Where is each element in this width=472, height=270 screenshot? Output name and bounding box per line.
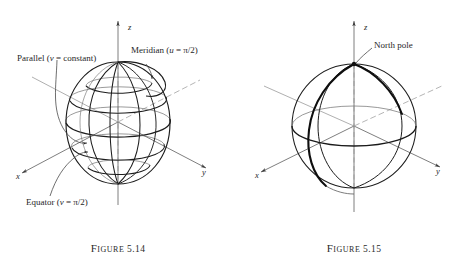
meridian-bold-tail [326,186,354,194]
axis-y-line [354,126,440,167]
axis-y-back [32,77,118,122]
callout-equator-leader [50,152,88,196]
figure-5-15-caption: FIGURE 5.15 [236,242,472,254]
parallel-lower-small-back [88,160,150,168]
axis-x-line [261,126,354,172]
axis-label-y: y [202,168,206,177]
caption-word: FIGURE [327,245,361,254]
axis-label-x: x [16,172,20,181]
axis-label-x: x [255,171,259,180]
meridian-bold-back [354,64,402,114]
axis-label-z: z [128,23,131,32]
figure-5-15-drawing [236,0,472,240]
axis-label-y: y [436,167,440,176]
figure-5-15: z x y North pole FIGURE 5.15 [236,0,472,270]
annotation-north-pole: North pole [374,41,413,50]
north-pole-point [352,62,356,66]
annotation-equator: Equator (v = π/2) [26,198,88,207]
meridian-bold-front [308,64,354,186]
axes-group [261,21,444,212]
caption-word: FIGURE [91,245,125,254]
annotation-meridian: Meridian (u = π/2) [131,46,198,55]
figure-page: z x y Parallel (v = constant) Meridian (… [0,0,472,270]
annotation-parallel: Parallel (v = constant) [17,54,96,63]
callout-lines-group [50,60,152,196]
parallel-lower-small [88,165,150,175]
figure-5-14-caption: FIGURE 5.14 [0,242,236,254]
caption-number: 5.14 [127,244,145,254]
axis-label-z: z [364,23,367,32]
caption-number: 5.15 [363,244,381,254]
meridian-back-left [80,62,118,184]
axis-x-back [118,80,200,122]
meridian-front-right [118,62,140,184]
meridian-thin-front [354,64,402,188]
meridian-bold-group [308,64,402,194]
meridian-thin-back [318,64,354,188]
callout-north-pole-leader [356,48,372,63]
axis-y-line [118,122,206,168]
callout-parallel-leader [55,60,87,143]
figure-5-14: z x y Parallel (v = constant) Meridian (… [0,0,236,270]
axis-y-back [264,86,354,126]
